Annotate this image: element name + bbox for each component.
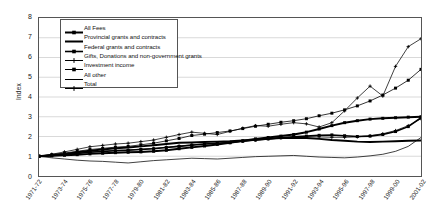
x-tick-label: 1975-76 [75, 178, 94, 201]
data-point [343, 121, 346, 124]
x-tick-label: 1995-96 [331, 178, 350, 201]
data-point [152, 142, 155, 145]
data-point [101, 147, 104, 150]
data-point [318, 114, 321, 117]
legend-label: Investment income [84, 60, 134, 69]
legend-marker-icon [64, 70, 84, 79]
legend-marker-icon [64, 42, 84, 51]
data-point [305, 122, 308, 125]
x-tick-label: 1983-84 [177, 178, 196, 201]
data-point [305, 117, 308, 120]
legend-label: Total [84, 79, 97, 88]
y-tick-label: 8 [18, 13, 32, 20]
data-point [305, 131, 308, 134]
x-tick-label: 1979-80 [126, 178, 145, 201]
legend-item: All Fees [64, 23, 175, 32]
data-point [330, 112, 333, 115]
legend-item: Gifts, Donations and non-government gran… [64, 51, 175, 60]
y-tick-label: 2 [18, 133, 32, 140]
y-tick-label: 0 [18, 173, 32, 180]
x-tick-label: 1991-92 [280, 178, 299, 201]
data-point [356, 119, 359, 122]
legend-marker-icon [64, 23, 84, 32]
legend-label: Federal grants and contracts [84, 42, 160, 51]
line-chart: Index 012345678 1971-721973-741975-76197… [0, 0, 429, 223]
data-point [165, 136, 168, 139]
data-point [292, 119, 295, 122]
data-point [394, 87, 397, 90]
x-tick-label: 1993-94 [305, 178, 324, 201]
data-point [165, 139, 168, 142]
x-tick-label: 1997-98 [357, 178, 376, 201]
series-total [39, 117, 421, 158]
legend-item: All other [64, 69, 175, 78]
data-point [165, 149, 168, 152]
legend-item: Provincial grants and contracts [64, 32, 175, 41]
data-point [229, 129, 232, 132]
data-point [407, 79, 410, 82]
legend-label: Gifts, Donations and non-government gran… [84, 51, 202, 60]
legend-label: Provincial grants and contracts [84, 32, 166, 41]
data-point [203, 133, 206, 136]
data-point [190, 130, 193, 133]
data-point [407, 116, 410, 119]
data-point [152, 150, 155, 153]
data-point [216, 131, 219, 134]
data-point [114, 142, 117, 145]
data-point [178, 137, 181, 140]
data-point [88, 145, 91, 148]
data-point [139, 140, 142, 143]
legend-label: All other [84, 70, 106, 79]
data-point [381, 94, 384, 97]
data-point [369, 99, 372, 102]
data-point [139, 143, 142, 146]
legend-marker-icon [64, 60, 84, 69]
x-tick-label: 1977-78 [101, 178, 120, 201]
x-tick-label: 1973-74 [49, 178, 68, 201]
data-point [369, 118, 372, 121]
x-axis-tick-labels: 1971-721973-741975-761977-781979-801981-… [38, 178, 422, 223]
x-tick-label: 1989-90 [254, 178, 273, 201]
data-point [330, 124, 333, 127]
data-point [177, 133, 180, 136]
chart-legend: All FeesProvincial grants and contractsF… [60, 19, 178, 88]
x-tick-label: 1987-88 [229, 178, 248, 201]
y-tick-label: 4 [18, 93, 32, 100]
x-tick-label: 2001-02 [408, 178, 427, 201]
x-tick-label: 1999-00 [382, 178, 401, 201]
legend-marker-icon [64, 79, 84, 88]
y-tick-label: 6 [18, 53, 32, 60]
data-point [241, 127, 244, 130]
legend-marker-icon [64, 32, 84, 41]
data-point [254, 125, 257, 128]
data-point [101, 144, 104, 147]
y-tick-label: 3 [18, 113, 32, 120]
data-point [267, 123, 270, 126]
data-point [126, 142, 129, 145]
data-point [190, 134, 193, 137]
data-point [381, 117, 384, 120]
legend-item: Federal grants and contracts [64, 42, 175, 51]
data-point [356, 104, 359, 107]
legend-marker-icon [64, 51, 84, 60]
data-point [152, 138, 155, 141]
y-tick-label: 1 [18, 153, 32, 160]
x-tick-label: 1981-82 [152, 178, 171, 201]
legend-label: All Fees [84, 23, 106, 32]
data-point [127, 145, 130, 148]
data-point [394, 116, 397, 119]
data-point [420, 68, 421, 71]
x-tick-label: 1985-86 [203, 178, 222, 201]
data-point [343, 108, 346, 111]
y-tick-label: 5 [18, 73, 32, 80]
legend-item: Investment income [64, 60, 175, 69]
data-point [114, 146, 117, 149]
legend-item: Total [64, 79, 175, 88]
y-tick-label: 7 [18, 33, 32, 40]
data-point [279, 121, 282, 124]
